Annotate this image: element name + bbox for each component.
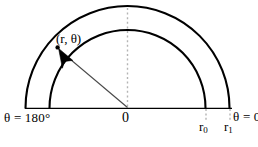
- label-r1: r1: [224, 120, 233, 135]
- arrowhead: [59, 48, 73, 68]
- label-theta-0: θ = 0°: [233, 110, 258, 123]
- label-point-r-theta: (r, θ): [56, 32, 81, 45]
- label-r0-subscript: 0: [203, 125, 208, 135]
- label-r1-subscript: 1: [228, 125, 233, 135]
- label-r0: r0: [199, 120, 208, 135]
- polar-annulus-figure: θ = 180° 0 θ = 0° r0 r1 (r, θ): [0, 0, 258, 147]
- label-theta-180: θ = 180°: [4, 111, 50, 124]
- label-origin: 0: [122, 111, 129, 125]
- radial-line: [64, 54, 128, 108]
